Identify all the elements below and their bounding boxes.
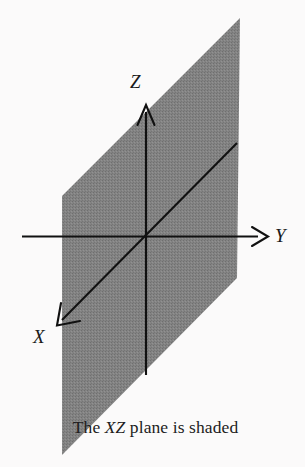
axes-diagram-svg: [0, 0, 305, 467]
figure-caption: The XZ plane is shaded: [0, 417, 305, 438]
z-axis-label: Z: [130, 72, 141, 91]
y-axis-label: Y: [275, 226, 286, 245]
caption-emphasis-text: XZ: [105, 417, 126, 437]
caption-before-text: The: [73, 417, 105, 437]
caption-after-text: plane is shaded: [125, 417, 238, 437]
x-axis-label: X: [33, 327, 45, 346]
coordinate-plane-figure: Z Y X The XZ plane is shaded: [0, 0, 305, 467]
